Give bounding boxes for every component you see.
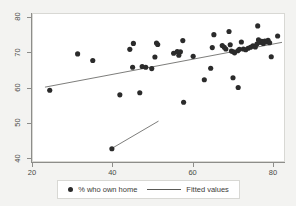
data-point xyxy=(255,23,260,28)
data-point xyxy=(127,47,132,52)
data-point xyxy=(152,54,157,59)
data-point xyxy=(269,54,274,59)
y-tick-label: 50 xyxy=(8,118,26,128)
data-point xyxy=(236,85,241,90)
data-point xyxy=(75,51,80,56)
data-point xyxy=(228,42,233,47)
data-point xyxy=(149,66,154,71)
y-tick-mark xyxy=(27,123,31,124)
y-tick-mark xyxy=(27,17,31,18)
data-point xyxy=(180,38,185,43)
chart-legend: % who own home Fitted values xyxy=(57,180,240,199)
data-point xyxy=(226,29,231,34)
data-point xyxy=(223,46,228,51)
x-tick-label: 40 xyxy=(101,168,123,177)
data-point xyxy=(211,32,216,37)
plot-area xyxy=(32,13,285,162)
data-point xyxy=(191,54,196,59)
data-point xyxy=(230,75,235,80)
data-layer xyxy=(33,14,284,161)
data-point xyxy=(154,40,159,45)
legend-label-fit: Fitted values xyxy=(186,185,229,194)
x-tick-mark xyxy=(193,163,194,167)
data-point xyxy=(117,92,122,97)
data-point xyxy=(90,58,95,63)
data-point xyxy=(109,146,114,151)
y-tick-label: 40 xyxy=(8,153,26,163)
y-tick-mark xyxy=(27,88,31,89)
data-point xyxy=(267,40,272,45)
data-point xyxy=(137,90,142,95)
y-tick-label: 70 xyxy=(8,47,26,57)
data-point xyxy=(202,77,207,82)
x-tick-label: 80 xyxy=(262,168,284,177)
x-axis-line xyxy=(31,162,285,163)
fitted-line xyxy=(112,121,159,148)
data-point xyxy=(143,65,148,70)
x-tick-label: 60 xyxy=(182,168,204,177)
data-point xyxy=(239,39,244,44)
legend-marker-icon xyxy=(68,187,73,192)
y-tick-mark xyxy=(27,158,31,159)
legend-entry-fit: Fitted values xyxy=(147,185,229,194)
chart-figure: 4050607080 20406080 % who own home Fitte… xyxy=(0,0,296,206)
data-point xyxy=(275,33,280,38)
x-tick-mark xyxy=(273,163,274,167)
legend-line-icon xyxy=(147,189,181,190)
data-point xyxy=(130,65,135,70)
data-point xyxy=(178,49,183,54)
data-point xyxy=(131,41,136,46)
y-tick-mark xyxy=(27,52,31,53)
y-tick-label: 80 xyxy=(8,12,26,22)
legend-entry-points: % who own home xyxy=(68,185,137,194)
data-point xyxy=(208,66,213,71)
x-tick-mark xyxy=(112,163,113,167)
x-tick-mark xyxy=(32,163,33,167)
data-point xyxy=(47,88,52,93)
data-point xyxy=(210,45,215,50)
data-point xyxy=(181,100,186,105)
legend-label-points: % who own home xyxy=(78,185,137,194)
x-tick-label: 20 xyxy=(21,168,43,177)
y-axis-line xyxy=(31,13,32,163)
y-tick-label: 60 xyxy=(8,83,26,93)
